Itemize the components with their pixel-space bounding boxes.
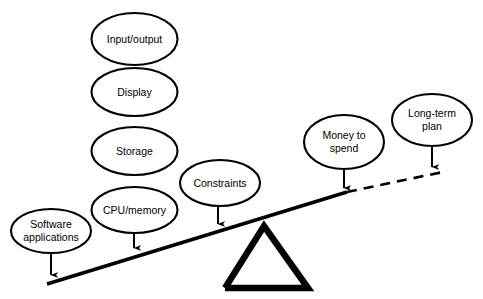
- node-input-output[interactable]: Input/output: [92, 13, 178, 65]
- fulcrum-triangle: [225, 226, 308, 288]
- software-applications-label-line2: applications: [23, 231, 78, 243]
- long-term-plan-label: Long-term: [408, 107, 456, 119]
- requirements-side-group: Software applications CPU/memory Storage…: [11, 13, 260, 253]
- money-to-spend-label: Money to: [322, 129, 365, 141]
- long-term-plan-label-line2: plan: [422, 120, 442, 132]
- software-applications-label: Software: [30, 218, 72, 230]
- input-output-label: Input/output: [107, 33, 163, 45]
- resources-side-group: Money to spend Long-term plan: [304, 94, 472, 169]
- cpu-memory-label: CPU/memory: [103, 204, 167, 216]
- diagram-canvas: Software applications CPU/memory Storage…: [0, 0, 483, 299]
- node-storage[interactable]: Storage: [92, 127, 178, 175]
- beam-dashed-segment: [347, 172, 443, 192]
- node-software-applications[interactable]: Software applications: [11, 209, 91, 253]
- storage-label: Storage: [116, 145, 153, 157]
- node-money-to-spend[interactable]: Money to spend: [304, 115, 384, 169]
- seesaw-diagram: Software applications CPU/memory Storage…: [0, 0, 483, 299]
- node-display[interactable]: Display: [92, 68, 178, 116]
- constraints-label: Constraints: [193, 177, 246, 189]
- node-long-term-plan[interactable]: Long-term plan: [392, 94, 472, 146]
- node-constraints[interactable]: Constraints: [180, 160, 260, 206]
- money-to-spend-label-line2: spend: [330, 142, 359, 154]
- display-label: Display: [117, 86, 152, 98]
- node-cpu-memory[interactable]: CPU/memory: [92, 187, 178, 233]
